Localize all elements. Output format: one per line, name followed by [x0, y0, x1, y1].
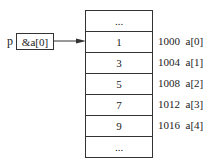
memory-cell-ellipsis-top: ... [86, 11, 152, 31]
address-label: 1000 a[0] [158, 35, 203, 47]
cell-value: ... [115, 15, 123, 27]
memory-cell: 3 [86, 52, 152, 73]
cell-value: 3 [116, 57, 122, 69]
memory-array: ... 1 3 5 7 9 ... [85, 10, 153, 158]
cell-value: 5 [116, 78, 122, 90]
cell-value: 1 [116, 36, 122, 48]
address-label: 1004 a[1] [158, 56, 203, 68]
address-label: 1008 a[2] [158, 77, 203, 89]
cell-value: 9 [116, 120, 122, 132]
memory-cell: 7 [86, 94, 152, 115]
cell-value: ... [115, 141, 123, 153]
memory-cell: 5 [86, 73, 152, 94]
memory-cell: 9 [86, 115, 152, 136]
memory-cell-ellipsis-bottom: ... [86, 136, 152, 157]
memory-cell: 1 [86, 31, 152, 52]
cell-value: 7 [116, 99, 122, 111]
address-label: 1012 a[3] [158, 98, 203, 110]
address-label: 1016 a[4] [158, 119, 203, 131]
